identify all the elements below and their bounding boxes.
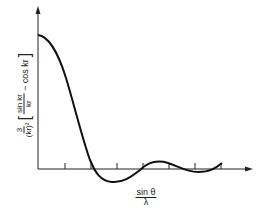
y-label-denominator: (kr)² [25,123,33,138]
x-label-denominator: λ [144,198,149,207]
y-label-tail: − cos kr [19,59,29,91]
y-label-bracket-open: [ [16,116,32,120]
x-label-fraction: sin θ λ [135,188,156,207]
y-label-inner-denominator: kr [25,100,33,107]
y-label-bracket-close: ] [16,53,32,57]
y-label-inner-fraction: sin kr kr [16,93,33,114]
data-curve [38,35,222,182]
x-axis-arrow-icon [245,167,253,172]
chart-canvas [0,0,264,213]
x-axis-label: sin θ λ [135,187,156,207]
y-label-fraction: 3 (kr)² [16,123,33,138]
y-axis-arrow-icon [36,6,41,14]
y-axis-label: 3 (kr)² [ sin kr kr − cos kr ] [16,53,33,137]
